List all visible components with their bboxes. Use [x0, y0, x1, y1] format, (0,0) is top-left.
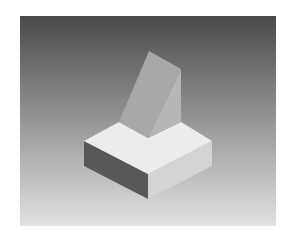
3d-model-render [20, 16, 276, 226]
3d-render-viewport [20, 16, 276, 226]
canvas [0, 0, 292, 241]
